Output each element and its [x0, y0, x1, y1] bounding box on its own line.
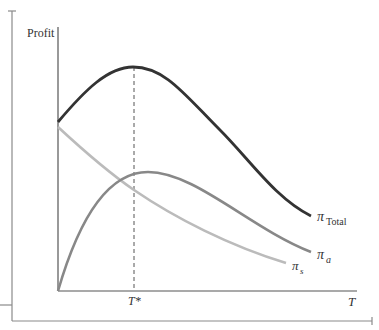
curve-pi-s	[58, 127, 286, 263]
label-pi-s: π s	[292, 258, 304, 276]
t-star-label: T*	[128, 294, 141, 308]
svg-text:π: π	[317, 247, 325, 262]
svg-text:s: s	[300, 266, 304, 276]
outer-frame	[0, 11, 372, 325]
curve-pi-total	[58, 67, 311, 216]
x-axis-label: T	[348, 294, 356, 309]
axes	[58, 27, 357, 291]
y-axis-label: Profit	[27, 26, 55, 40]
profit-diagram: Profit T T* π Total π a π s	[0, 0, 379, 330]
svg-text:a: a	[326, 254, 331, 265]
svg-text:Total: Total	[326, 216, 347, 227]
svg-text:π: π	[292, 258, 299, 273]
svg-text:π: π	[317, 209, 325, 224]
curve-pi-a	[58, 172, 311, 291]
label-pi-total: π Total	[317, 209, 347, 227]
label-pi-a: π a	[317, 247, 331, 265]
